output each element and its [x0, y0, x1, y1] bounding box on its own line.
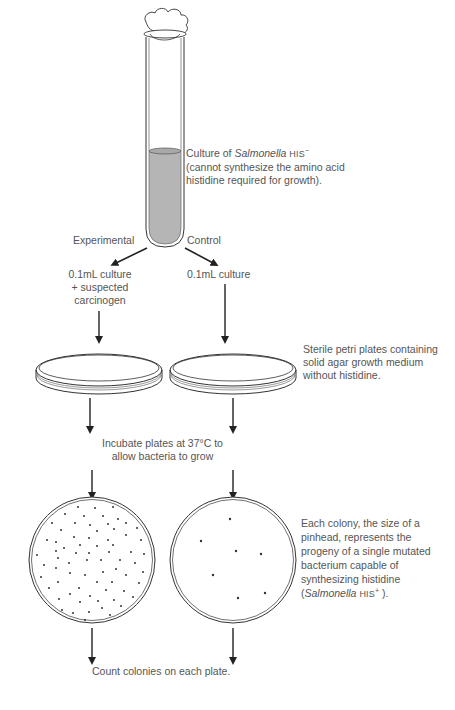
petri-dish-control-icon: [170, 354, 296, 394]
experimental-sample-label: 0.1mL culture + suspected carcinogen: [60, 268, 140, 307]
arrow-experimental: [114, 248, 147, 264]
strain-name: HIS: [359, 589, 375, 599]
incubate-label: Incubate plates at 37°C to allow bacteri…: [100, 437, 225, 463]
control-label: Control: [187, 234, 221, 247]
plates-label: Sterile petri plates containing solid ag…: [303, 343, 438, 382]
arrow-control: [185, 248, 215, 264]
tube-label: Culture of Salmonella HIS− (cannot synth…: [186, 147, 345, 187]
petri-dish-experimental-icon: [36, 354, 162, 394]
colony-label-line6: (Salmonella HIS+ ).: [301, 586, 431, 601]
tube-label-line1: Culture of Salmonella HIS−: [186, 147, 345, 161]
tube-label-line3: histidine required for growth).: [186, 174, 345, 187]
species-name: Salmonella: [234, 147, 286, 159]
strain-name: HIS: [289, 149, 305, 159]
final-label: Count colonies on each plate.: [92, 665, 230, 678]
control-sample-label: 0.1mL culture: [187, 268, 250, 281]
experimental-label: Experimental: [73, 234, 134, 247]
test-tube-icon: [144, 8, 188, 247]
result-plate-experimental: [29, 497, 155, 623]
colony-label: Each colony, the size of a pinhead, repr…: [301, 516, 431, 601]
tube-label-line2: (cannot synthesize the amino acid: [186, 161, 345, 174]
species-name: Salmonella: [305, 587, 357, 599]
result-plate-control: [170, 497, 296, 623]
